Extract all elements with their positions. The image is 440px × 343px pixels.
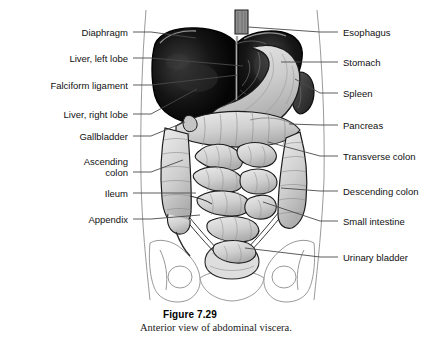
label-urinary-bladder: Urinary bladder xyxy=(343,252,408,263)
abdominal-viscera-figure xyxy=(0,0,440,343)
label-appendix: Appendix xyxy=(88,214,128,225)
label-esophagus: Esophagus xyxy=(343,27,391,38)
label-colon: colon xyxy=(105,167,128,178)
label-stomach: Stomach xyxy=(343,57,381,68)
label-liver-left-lobe: Liver, left lobe xyxy=(69,53,128,64)
label-spleen: Spleen xyxy=(343,88,373,99)
label-transverse-colon: Transverse colon xyxy=(343,151,416,162)
label-small-intestine: Small intestine xyxy=(343,216,405,227)
label-diaphragm: Diaphragm xyxy=(82,27,128,38)
label-descending-colon: Descending colon xyxy=(343,186,419,197)
leader-pancreas xyxy=(289,124,338,125)
label-ileum: Ileum xyxy=(105,188,128,199)
label-liver-right-lobe: Liver, right lobe xyxy=(64,109,128,120)
figure-caption: Anterior view of abdominal viscera. xyxy=(140,322,292,333)
esophagus xyxy=(235,10,248,34)
label-pancreas: Pancreas xyxy=(343,120,383,131)
label-falciform-ligament: Falciform ligament xyxy=(50,80,128,91)
label-gallbladder: Gallbladder xyxy=(79,131,128,142)
figure-number: Figure 7.29 xyxy=(163,309,217,320)
ascending-colon xyxy=(161,128,191,226)
label-ascending: Ascending xyxy=(84,156,128,167)
descending-colon xyxy=(278,132,307,228)
